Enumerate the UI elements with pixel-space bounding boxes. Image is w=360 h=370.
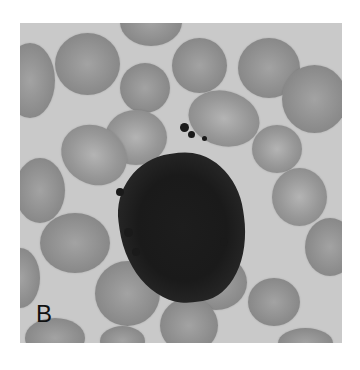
red-blood-cell (120, 63, 170, 113)
panel-label: B (36, 302, 52, 326)
red-blood-cell (40, 213, 110, 273)
red-blood-cell (172, 38, 227, 93)
red-blood-cell (305, 218, 342, 276)
red-blood-cell (120, 23, 182, 46)
granule (220, 238, 228, 246)
granule (202, 136, 207, 141)
micrograph-panel: B (20, 23, 342, 343)
granule (188, 131, 195, 138)
red-blood-cell (25, 318, 85, 343)
red-blood-cell (20, 248, 40, 308)
red-blood-cell (278, 328, 333, 343)
red-blood-cell (282, 65, 342, 133)
red-blood-cell (100, 326, 145, 343)
granule (124, 228, 133, 237)
red-blood-cell (252, 125, 302, 173)
red-blood-cell (20, 158, 65, 223)
red-blood-cell (20, 43, 55, 118)
granule (116, 188, 124, 196)
red-blood-cell (248, 278, 300, 326)
granule (180, 123, 189, 132)
granule (132, 248, 140, 256)
red-blood-cell (55, 33, 120, 95)
red-blood-cell (272, 168, 327, 226)
